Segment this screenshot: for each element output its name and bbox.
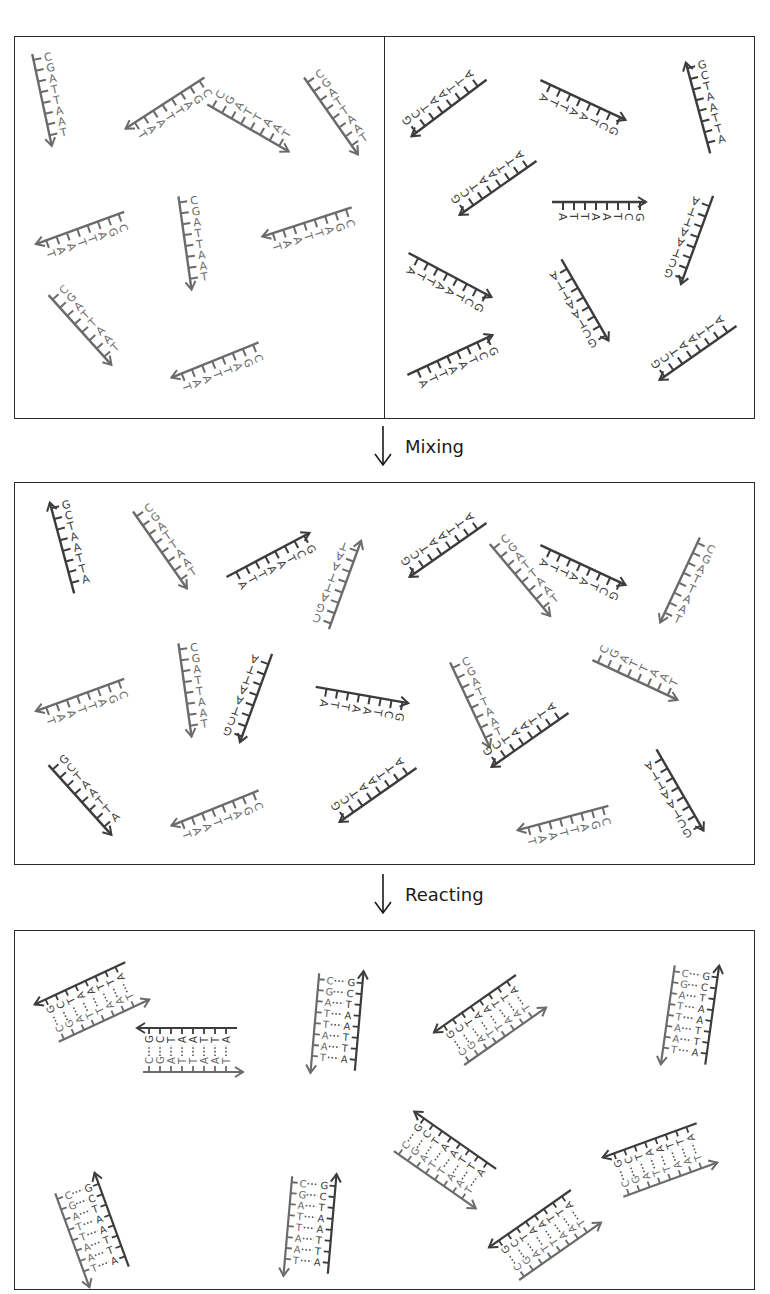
svg-text:T: T [341, 1031, 350, 1043]
svg-text:G: G [298, 1189, 307, 1201]
svg-text:A: A [536, 557, 551, 570]
svg-text:A: A [317, 1213, 325, 1225]
svg-text:A: A [320, 1041, 328, 1053]
svg-text:G: G [155, 1056, 166, 1064]
svg-text:T: T [43, 715, 58, 727]
svg-text:C: C [326, 975, 334, 987]
svg-text:C: C [155, 1036, 166, 1043]
svg-text:A: A [462, 67, 477, 81]
svg-text:A: A [293, 1244, 301, 1256]
svg-text:A: A [512, 148, 527, 162]
strand-b-molecule: GCTAATTA [380, 285, 520, 425]
svg-text:A: A [642, 758, 655, 773]
svg-text:A: A [416, 378, 431, 391]
svg-text:A: A [294, 1233, 302, 1245]
svg-text:T: T [321, 1019, 330, 1031]
svg-text:C: C [346, 988, 354, 1000]
svg-text:A: A [689, 193, 701, 208]
svg-text:T: T [314, 1234, 323, 1246]
svg-text:T: T [318, 1052, 327, 1064]
strand-b-molecule: GCTAATTA [308, 725, 448, 865]
svg-text:A: A [248, 651, 260, 666]
strand-b-molecule: GCTAATTA [610, 720, 750, 860]
svg-text:G: G [320, 1180, 329, 1192]
svg-text:A: A [392, 755, 407, 769]
svg-text:A: A [316, 698, 330, 708]
svg-text:T: T [294, 1222, 303, 1234]
svg-text:A: A [313, 1256, 321, 1268]
svg-text:A: A [544, 700, 559, 714]
svg-text:A: A [188, 1036, 199, 1043]
strand-a-molecule: CGATTAAT [145, 290, 285, 430]
svg-text:T: T [179, 381, 194, 393]
svg-text:G: G [347, 977, 356, 989]
svg-text:A: A [712, 313, 727, 327]
svg-text:T: T [199, 1036, 210, 1044]
svg-text:C: C [144, 1057, 155, 1064]
svg-text:A: A [684, 1132, 697, 1142]
dna-duplex: CGGCATTATAATATTA [105, 965, 275, 1135]
svg-text:A: A [340, 1053, 348, 1065]
svg-text:A: A [316, 1224, 324, 1236]
svg-text:G: G [144, 1035, 155, 1043]
svg-text:T: T [199, 270, 209, 284]
svg-text:T: T [519, 1002, 533, 1015]
svg-text:T: T [188, 1057, 199, 1065]
strand-a-molecule: CGATTAAT [10, 260, 150, 400]
svg-text:A: A [344, 1010, 352, 1022]
svg-text:T: T [179, 829, 194, 841]
svg-text:T: T [344, 999, 353, 1011]
svg-text:T: T [89, 1262, 100, 1275]
svg-text:T: T [524, 835, 539, 846]
strand-a-molecule: CGATTAAT [145, 738, 285, 878]
svg-text:T: T [134, 128, 149, 142]
strand-a-molecule: CGATTAAT [237, 152, 377, 292]
svg-text:A: A [235, 579, 250, 592]
svg-text:T: T [356, 130, 370, 145]
svg-text:A: A [691, 1047, 699, 1059]
svg-text:A: A [199, 1057, 210, 1064]
svg-text:T: T [313, 1245, 322, 1257]
svg-text:T: T [221, 1057, 232, 1065]
svg-text:A: A [109, 1254, 119, 1267]
svg-text:A: A [210, 1057, 221, 1064]
svg-text:T: T [317, 1202, 326, 1214]
svg-text:A: A [556, 213, 569, 221]
svg-text:A: A [321, 1030, 329, 1042]
svg-text:T: T [269, 241, 284, 253]
svg-text:T: T [692, 1152, 705, 1163]
svg-text:T: T [58, 126, 69, 140]
svg-text:T: T [295, 1211, 304, 1223]
strand-b-molecule: GCTAATTA [10, 730, 150, 870]
svg-text:T: T [340, 1042, 349, 1054]
svg-text:T: T [177, 1057, 188, 1065]
svg-text:A: A [324, 997, 332, 1009]
svg-text:T: T [574, 1217, 588, 1230]
svg-text:T: T [322, 1008, 331, 1020]
dna-duplex: CGGCATTATAATATTA [7, 1145, 177, 1294]
svg-text:C: C [319, 1191, 327, 1203]
svg-text:T: T [166, 1036, 177, 1044]
svg-text:A: A [297, 1200, 305, 1212]
svg-text:T: T [43, 248, 58, 260]
svg-text:T: T [669, 1044, 678, 1056]
svg-text:G: G [325, 986, 334, 998]
svg-text:T: T [666, 676, 681, 689]
svg-text:A: A [343, 1021, 351, 1033]
dna-duplex: CGGCATTATAATATTA [225, 1140, 395, 1294]
svg-text:A: A [716, 132, 727, 147]
svg-text:A: A [403, 265, 418, 278]
svg-text:T: T [338, 538, 350, 553]
svg-text:T: T [210, 1036, 221, 1044]
strand-b-molecule: GCTAATTA [628, 283, 768, 423]
svg-text:A: A [166, 1057, 177, 1064]
svg-text:A: A [177, 1036, 188, 1043]
svg-text:A: A [221, 1036, 232, 1043]
svg-text:T: T [291, 1255, 300, 1267]
dna-duplex: CGGCATTATAATATTA [460, 1150, 630, 1294]
svg-text:C: C [299, 1178, 307, 1190]
svg-text:A: A [547, 268, 560, 283]
svg-text:A: A [536, 92, 551, 105]
